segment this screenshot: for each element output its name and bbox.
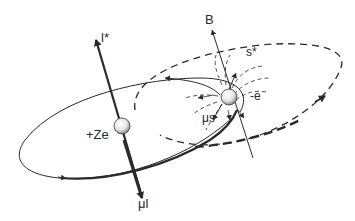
- label-b: B: [205, 12, 214, 27]
- label-l-star: l*: [101, 30, 109, 45]
- electron: [221, 89, 237, 105]
- figure-caption: [6, 214, 346, 221]
- label-plus-ze: +Ze: [86, 127, 109, 142]
- label-s-star: s*: [246, 45, 257, 59]
- label-mu-s: μs: [202, 111, 215, 125]
- electron-orbit: [135, 44, 342, 147]
- nucleus: [114, 118, 130, 134]
- electron-motion-arrow: [165, 78, 220, 95]
- field-arrow-down: [228, 110, 230, 120]
- label-mu-l: μl: [138, 196, 148, 211]
- spin-orbit-diagram: l* B s* -e +Ze μs μl: [0, 0, 355, 221]
- label-minus-e: -e: [250, 89, 261, 103]
